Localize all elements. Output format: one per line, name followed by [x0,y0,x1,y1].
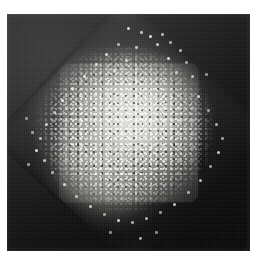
particle-speck [191,75,194,78]
page-margin-bottom [0,251,257,263]
particle-speck [61,99,65,103]
particle-speck [35,149,39,153]
particle-speck [135,46,138,49]
particle-speck [127,27,130,30]
particle-speck [45,123,48,126]
cluster-bloom [35,38,223,228]
particle-speck [51,171,53,173]
particle-speck [185,61,187,63]
particle-speck [149,35,153,39]
particle-speck [39,137,42,140]
particle-speck [139,237,142,240]
particle-speck [199,179,202,182]
particle-speck [113,69,116,72]
particle-speck [125,59,128,62]
particle-speck [197,95,200,98]
particle-speck [25,117,27,119]
cluster-grain-fine [35,38,223,228]
page-margin-top [0,0,257,14]
cluster-core-mass [7,14,250,251]
particle-speck [155,231,157,233]
particle-speck [95,63,98,66]
particle-speck [103,213,105,215]
micrograph-figure [0,0,257,263]
particle-speck [83,75,86,78]
particle-speck [71,87,74,90]
cluster-intergrain-gaps [35,38,223,228]
particle-speck [209,165,211,167]
particle-speck [117,219,121,223]
scattered-particles [11,15,247,251]
particle-speck [63,183,66,186]
page-margin-left [0,0,7,263]
particle-speck [75,195,78,198]
particle-speck [215,123,218,126]
particle-speck [27,163,30,166]
particle-speck [131,221,134,224]
particle-speck [207,109,209,111]
particle-speck [217,151,221,155]
dark-background-field [7,14,250,251]
particle-speck [159,211,161,213]
particle-cluster [35,38,223,228]
particle-speck [161,33,164,36]
cluster-grain-coarse [35,38,223,228]
particle-speck [105,53,108,56]
particle-speck [221,137,224,140]
particle-speck [53,111,55,113]
particle-speck [179,49,182,52]
particle-speck [140,31,142,33]
tilted-substrate-square [7,14,250,251]
particle-speck [187,191,190,194]
particle-speck [43,159,46,162]
particle-speck [31,131,33,133]
particle-speck [117,43,119,45]
scanned-plate [7,14,250,251]
particle-speck [167,57,171,61]
particle-speck [145,217,148,220]
particle-speck [169,41,171,43]
cluster-grain-medium [35,38,223,228]
particle-speck [205,73,207,75]
particle-speck [156,43,159,46]
particle-speck [89,205,92,208]
plate-edge-softening [7,14,250,251]
particle-speck [175,71,178,74]
film-grain-overlay [7,14,250,251]
particle-speck [173,203,176,206]
page-margin-right [250,0,257,263]
particle-speck [109,231,111,233]
cluster-diamond-silhouette [7,14,250,251]
